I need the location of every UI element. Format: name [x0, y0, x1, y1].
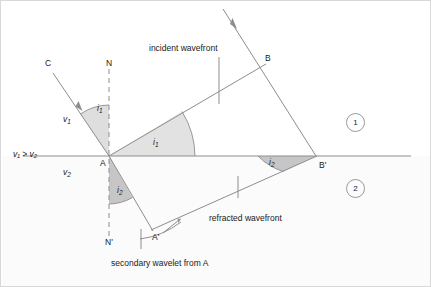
region-2-label: 2	[353, 184, 357, 193]
label-angle-i2-bprime: i2	[269, 158, 275, 167]
incident-ray-arrowhead	[230, 18, 237, 29]
label-point-b-prime: B'	[319, 161, 326, 170]
incident-ray-ca-arrowhead	[76, 101, 83, 111]
label-point-c: C	[45, 59, 51, 68]
label-secondary-wavelet: secondary wavelet from A	[111, 259, 208, 268]
incident-ray-to-bprime	[223, 9, 316, 156]
label-speed-v1: v1	[63, 115, 71, 124]
label-speed-v2: v2	[63, 168, 71, 177]
label-refracted-wavefront: refracted wavefront	[209, 214, 282, 223]
label-angle-i2-lower: i2	[117, 186, 123, 195]
label-point-n-prime: N'	[105, 238, 113, 247]
label-incident-wavefront: incident wavefront	[149, 44, 218, 53]
label-point-a-prime: A'	[152, 233, 159, 242]
region-2-badge: 2	[346, 179, 365, 198]
angle-i1-wavefront-wedge	[109, 112, 195, 157]
angle-i1-upper-wedge	[81, 105, 110, 156]
label-point-n: N	[106, 59, 112, 68]
refraction-diagram-figure: C N B A B' A' N' v1 v2 v₁ > v₂ i1 i1 i2 …	[0, 0, 431, 287]
label-point-b: B	[265, 54, 271, 63]
label-angle-i1-upper: i1	[97, 104, 103, 113]
label-speed-relation: v₁ > v₂	[13, 150, 37, 159]
region-1-badge: 1	[346, 113, 365, 132]
region-1-label: 1	[353, 118, 357, 127]
label-angle-i1-wavefront: i1	[153, 138, 159, 147]
label-point-a: A	[100, 159, 106, 168]
